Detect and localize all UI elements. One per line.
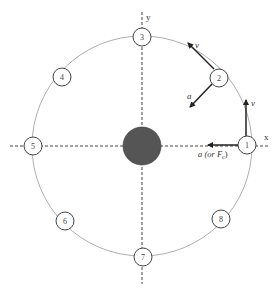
svg-text:3: 3	[140, 33, 144, 42]
position-4: 4	[53, 68, 71, 86]
pos1-acceleration-label: a (or Fc)	[198, 149, 228, 160]
position-8: 8	[212, 210, 230, 228]
svg-text:4: 4	[60, 73, 64, 82]
svg-text:5: 5	[31, 142, 35, 151]
position-1: 1	[238, 136, 256, 154]
svg-text:6: 6	[63, 217, 67, 226]
y-axis-label: y	[146, 12, 151, 22]
position-3: 3	[133, 28, 151, 46]
svg-text:2: 2	[217, 74, 221, 83]
svg-text:1: 1	[245, 141, 249, 150]
pos2-acceleration-arrow	[190, 84, 212, 107]
position-5: 5	[24, 137, 42, 155]
pos2-acceleration-label: a	[187, 91, 192, 101]
central-body	[123, 127, 161, 165]
pos2-velocity-arrow	[188, 43, 214, 69]
circular-motion-diagram: x y v a v a (or Fc) 1 2 3 4 5 6 7	[0, 0, 278, 291]
position-7: 7	[134, 248, 152, 266]
position-2: 2	[210, 69, 228, 87]
svg-text:7: 7	[141, 253, 145, 262]
position-6: 6	[56, 212, 74, 230]
pos2-velocity-label: v	[195, 40, 199, 50]
x-axis-label: x	[264, 132, 269, 142]
svg-text:8: 8	[219, 215, 223, 224]
pos1-velocity-label: v	[251, 98, 255, 108]
